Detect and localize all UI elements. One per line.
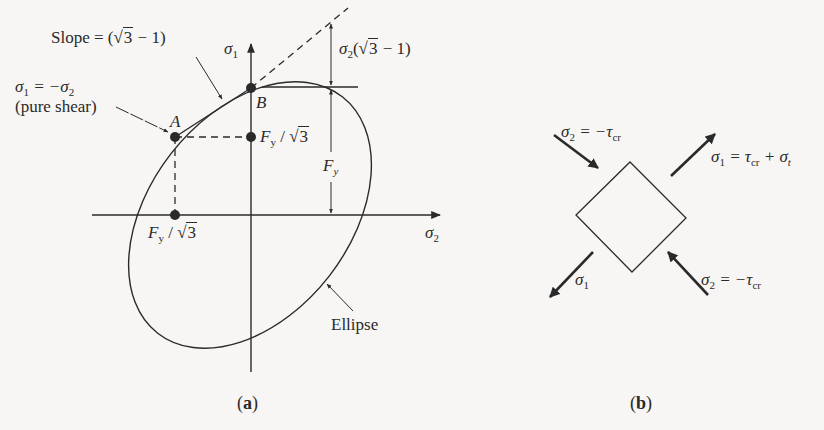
ellipse-label: Ellipse	[331, 316, 378, 333]
fy-h-slash: /	[164, 223, 177, 242]
slope-line	[175, 88, 251, 137]
ellipse-leader	[327, 284, 353, 311]
tr-sub2: cr	[751, 156, 760, 168]
bl-sub: 1	[583, 279, 589, 291]
pure-shear-equation: σ1 = −σ2	[15, 78, 74, 98]
fy-sqrt3-sigma1-dot	[246, 132, 256, 142]
point-b-label: B	[256, 94, 266, 111]
slope-leader	[196, 57, 222, 99]
tl-sub2: cr	[612, 131, 621, 143]
pure-shear-leader	[116, 107, 168, 132]
caption-b: (b)	[630, 393, 652, 414]
fy-h-f: F	[148, 223, 158, 242]
point-b-dot	[246, 83, 256, 93]
top-left-stress-label: σ2 = −τcr	[561, 123, 621, 143]
fy-radicand: 3	[298, 126, 309, 146]
tr-sub3: t	[788, 156, 791, 168]
slope-radicand: 3	[123, 27, 134, 47]
caption-a-text: a	[243, 393, 252, 413]
fy-dimension-label: Fy	[323, 157, 338, 177]
fy-sqrt3-sigma1-label: Fy / √3	[260, 128, 309, 148]
top-right-stress-label: σ1 = τcr + σt	[711, 148, 791, 168]
br-sub2: cr	[752, 279, 761, 291]
s2-dim-radicand: 3	[368, 38, 379, 58]
sigma2-subscript: 2	[433, 232, 439, 244]
slope-label: Slope = (√3 − 1)	[51, 29, 166, 46]
sigma2-dimension-label: σ2(√3 − 1)	[339, 40, 411, 60]
fy-dim-sub: y	[333, 165, 338, 177]
caption-b-text: b	[636, 393, 646, 413]
point-a-dot	[170, 132, 180, 142]
sigma2-axis-label: σ2	[425, 224, 439, 244]
sigma1-subscript: 1	[232, 48, 238, 60]
caption-a: (a)	[237, 393, 258, 414]
tl-eq: = −τ	[575, 122, 613, 141]
fy-sqrt3-sigma2-label: Fy / √3	[148, 224, 197, 244]
point-a-label: A	[170, 113, 180, 130]
sigma1-axis-label: σ1	[224, 40, 238, 60]
tr-eq: = τ	[725, 147, 751, 166]
arrow-top-right-tension	[671, 134, 715, 176]
s2-dim-close: − 1)	[378, 39, 410, 58]
pure-shear-mid: = −σ	[29, 77, 69, 96]
fy-f: F	[260, 127, 270, 146]
slope-prefix: Slope = (	[51, 28, 113, 47]
fy-dim-f: F	[323, 156, 333, 175]
fy-slash: /	[276, 127, 289, 146]
slope-suffix: − 1)	[133, 28, 165, 47]
diagram-canvas	[0, 0, 824, 430]
tr-plus: + σ	[760, 147, 788, 166]
pure-shear-caption: (pure shear)	[15, 98, 97, 115]
slope-extension-dashed	[251, 8, 348, 88]
fy-h-radicand: 3	[186, 222, 197, 242]
bottom-right-stress-label: σ2 = −τcr	[701, 271, 761, 291]
fy-sqrt3-sigma2-dot	[170, 210, 180, 220]
bottom-left-stress-label: σ1	[575, 271, 589, 291]
br-eq: = −τ	[715, 270, 753, 289]
